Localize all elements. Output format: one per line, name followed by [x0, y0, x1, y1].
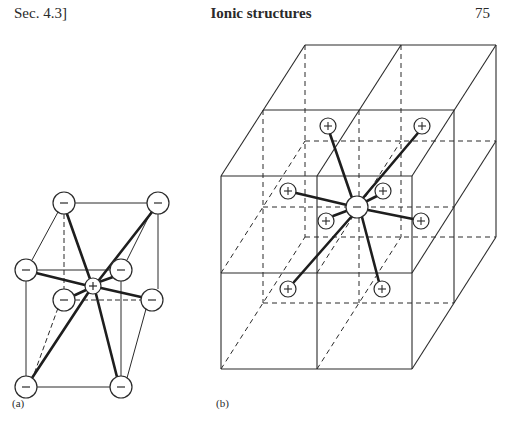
figure-a-caption: (a) [12, 397, 24, 409]
figure-b-anion-environment [0, 0, 508, 422]
figure-b-caption: (b) [216, 397, 229, 409]
